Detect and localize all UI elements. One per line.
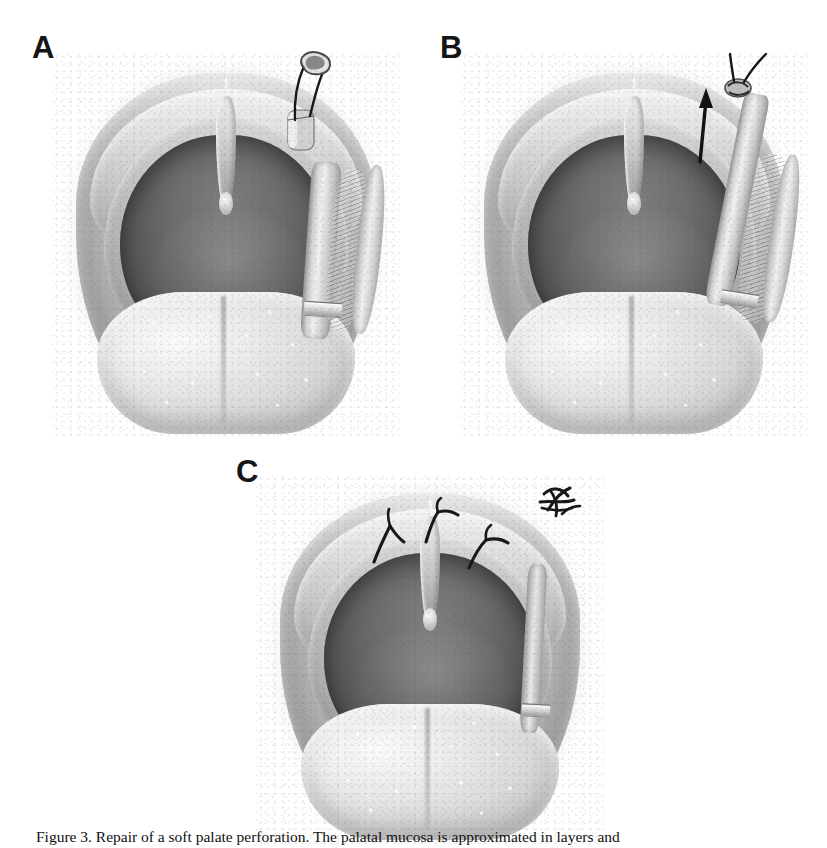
panel-c: C: [232, 452, 604, 844]
panel-b: B: [436, 28, 808, 438]
suture-strand-2: [310, 70, 324, 116]
tied-suture-2: [426, 498, 458, 542]
suture-strand-1: [730, 54, 734, 81]
suture-layer-a: [52, 54, 400, 438]
tied-suture-3: [469, 525, 508, 568]
tied-suture-1: [374, 509, 404, 562]
traction-arrow-icon: [699, 88, 713, 162]
figure-caption: Figure 3. Repair of a soft palate perfor…: [36, 826, 799, 848]
discarded-suture-bundle: [540, 488, 580, 516]
panel-a-illustration: [52, 54, 400, 438]
suture-strand-2: [744, 54, 766, 82]
suture-layer-c: [256, 476, 604, 844]
panel-c-illustration: [256, 476, 604, 844]
panel-a: A: [28, 28, 400, 438]
suture-knot: [725, 79, 751, 97]
suture-layer-b: [460, 54, 808, 438]
surgical-needle: [301, 52, 330, 74]
panel-b-illustration: [460, 54, 808, 438]
